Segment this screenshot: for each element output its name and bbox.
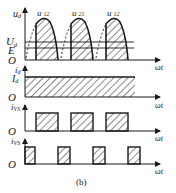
x-axis-label-2: ωt <box>155 101 164 110</box>
curve-label-u12-a: u12 <box>37 8 50 18</box>
panel-ivs1: iVS O ωt <box>8 102 164 143</box>
origin-label-4: O <box>8 158 16 170</box>
dashed-rise-3 <box>96 24 106 58</box>
waveform-figure: ud u12 u21 u12 Ud E O ωt id Id O ωt iVS … <box>0 0 176 193</box>
dashed-rise-1 <box>26 24 36 58</box>
ivs1-pulse-3 <box>106 113 128 131</box>
panel-id: id Id O ωt <box>8 65 164 110</box>
ivs3-pulse-3 <box>93 147 105 164</box>
x-axis-label-3: ωt <box>155 134 164 143</box>
ivs3-pulse-2 <box>58 147 70 164</box>
x-axis-label-4: ωt <box>155 167 164 176</box>
id-current-region <box>25 77 135 97</box>
figure-caption: (b) <box>76 177 87 187</box>
id-axis-label: id <box>15 65 22 75</box>
ivs1-pulse-2 <box>71 113 93 131</box>
ivs3-pulse-4 <box>128 147 140 164</box>
curve-label-u21: u21 <box>72 8 85 18</box>
ud-axis-label: ud <box>13 8 22 19</box>
panel-ivs3: iVS O ωt <box>8 136 164 176</box>
ivs3-axis-label: iVS <box>11 136 20 146</box>
dashed-rise-2 <box>61 24 71 58</box>
x-axis-label-1: ωt <box>155 63 164 72</box>
curve-label-u12-b: u12 <box>107 8 120 18</box>
panel-ud: ud u12 u21 u12 Ud E O ωt <box>6 8 164 72</box>
ivs3-pulse-1 <box>25 147 35 164</box>
ivs1-pulse-1 <box>36 113 58 131</box>
ivs1-axis-label: iVS <box>11 102 20 112</box>
